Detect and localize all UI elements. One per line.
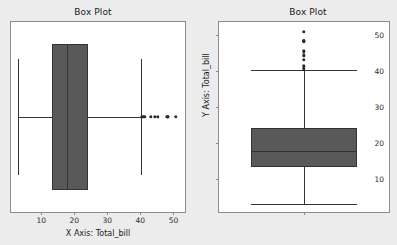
x-axis-label-left: X Axis: Total_bill: [66, 229, 130, 238]
outlier-point: [174, 115, 177, 118]
panel-horizontal-boxplot: Box Plot 1020304050 X Axis: Total_bill: [0, 0, 198, 245]
y-axis-tick-label: 20: [374, 138, 384, 147]
outlier-point: [143, 115, 146, 118]
plot-area-right: 1020304050: [218, 21, 390, 213]
x-axis-tick: [107, 212, 108, 215]
box-whisker-cap: [251, 204, 357, 205]
outlier-point: [156, 115, 159, 118]
box-whisker-cap: [18, 59, 19, 175]
page-title-right: Box Plot: [209, 7, 397, 17]
y-axis-tick: [216, 179, 219, 180]
x-axis-tick: [41, 212, 42, 215]
outlier-point: [302, 54, 305, 57]
x-axis-tick-label: 20: [69, 216, 79, 225]
outlier-point: [302, 50, 305, 53]
x-axis-tick-label: 50: [169, 216, 179, 225]
x-axis-tick: [173, 212, 174, 215]
y-axis-tick: [216, 35, 219, 36]
y-axis-tick: [216, 107, 219, 108]
x-axis-tick-label: 10: [36, 216, 46, 225]
x-axis-tick-label: 30: [103, 216, 113, 225]
box-whisker: [304, 70, 305, 128]
box-whisker: [304, 167, 305, 204]
x-axis-tick: [74, 212, 75, 215]
outlier-point: [302, 30, 305, 33]
box-median-line: [251, 151, 357, 152]
page-title-left: Box Plot: [0, 7, 192, 17]
outlier-point: [166, 115, 169, 118]
box-whisker: [18, 117, 52, 118]
outlier-point: [302, 39, 305, 42]
y-axis-label-right: Y Axis: Total_bill: [202, 53, 211, 117]
box-iqr: [251, 128, 357, 167]
box-median-line: [67, 44, 68, 190]
x-axis-tick: [140, 212, 141, 215]
x-axis-tick-label: 40: [136, 216, 146, 225]
box-iqr: [52, 44, 88, 190]
y-axis-tick-label: 40: [374, 66, 384, 75]
figure: Box Plot 1020304050 X Axis: Total_bill B…: [0, 0, 397, 245]
outlier-point: [302, 58, 305, 61]
outlier-point: [149, 115, 152, 118]
box-whisker-cap: [251, 70, 357, 71]
y-axis-tick: [216, 71, 219, 72]
y-axis-tick-label: 10: [374, 175, 384, 184]
y-axis-tick-label: 30: [374, 102, 384, 111]
y-axis-tick: [216, 143, 219, 144]
box-whisker: [88, 117, 141, 118]
x-axis-tick: [304, 212, 305, 215]
y-axis-tick-label: 50: [374, 30, 384, 39]
panel-vertical-boxplot: Box Plot 1020304050 Y Axis: Total_bill: [199, 0, 397, 245]
plot-area-left: 1020304050: [10, 21, 186, 213]
